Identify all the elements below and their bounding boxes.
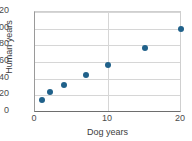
data-point xyxy=(105,62,111,68)
x-axis-label: Dog years xyxy=(34,127,181,137)
y-axis-tick-label: 60 xyxy=(0,56,9,65)
x-axis-tick-label: 10 xyxy=(95,114,119,123)
data-point xyxy=(39,97,45,103)
data-point xyxy=(178,26,184,32)
x-axis-tick-label: 0 xyxy=(22,114,46,123)
scatter-chart: Human years Dog years 020406080100120010… xyxy=(0,0,192,141)
y-axis-tick-label: 40 xyxy=(0,73,9,82)
data-point xyxy=(61,82,67,88)
x-axis-tick-label: 20 xyxy=(168,114,192,123)
plot-area xyxy=(34,11,181,112)
y-axis-tick-label: 20 xyxy=(0,89,9,98)
data-point xyxy=(142,45,148,51)
y-axis-tick-label: 80 xyxy=(0,39,9,48)
data-point xyxy=(47,89,53,95)
y-axis-tick-label: 120 xyxy=(0,6,9,15)
y-axis-tick-label: 0 xyxy=(0,106,9,115)
y-axis-tick-label: 100 xyxy=(0,23,9,32)
data-point xyxy=(83,72,89,78)
